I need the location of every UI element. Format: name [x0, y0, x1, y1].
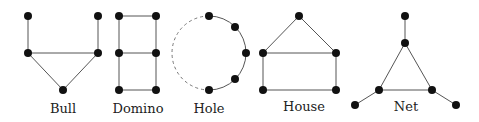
bull-label: Bull: [50, 101, 76, 116]
net-graph: [351, 12, 460, 109]
domino-graph: [115, 12, 160, 94]
house-label: House: [283, 99, 325, 114]
domino-label: Domino: [113, 101, 164, 116]
hole-label: Hole: [193, 101, 224, 116]
bull-graph: [24, 12, 102, 94]
net-label: Net: [394, 99, 418, 114]
house-graph: [259, 12, 340, 94]
hole-graph: [172, 12, 250, 94]
